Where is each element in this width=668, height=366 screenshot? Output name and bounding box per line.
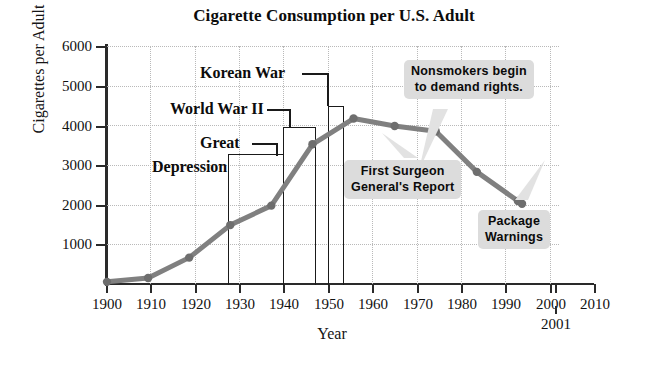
y-tick-label-2000: 2000 [40,197,92,214]
y-tick-label-6000: 6000 [40,38,92,55]
leader-world-war-ii [267,109,290,111]
x-tick-1920 [195,284,197,293]
x-axis-title: Year [106,325,558,343]
annotation-surgeon-line1: First Surgeon [351,164,454,180]
chart-title: Cigarette Consumption per U.S. Adult [0,6,668,26]
data-point [144,274,152,282]
x-tick-1950 [328,284,330,293]
x-tick-2000 [550,284,552,293]
x-tick-2001-stem [555,306,557,314]
data-point [349,114,357,122]
data-point [103,278,111,286]
y-tick-label-1000: 1000 [40,236,92,253]
annotation-nonsmokers: Nonsmokers begin to demand rights. [404,60,534,99]
y-tick-3000 [96,165,107,167]
y-tick-label-3000: 3000 [40,157,92,174]
data-point [267,201,275,209]
callout-korean-war: Korean War [200,64,285,82]
y-tick-4000 [96,126,107,128]
x-tick-1960 [372,284,374,293]
chart-container: Cigarette Consumption per U.S. Adult Cig… [0,0,668,366]
x-tick-1980 [461,284,463,293]
annotation-package-warnings: Package Warnings [478,210,550,249]
annotation-surgeon-line2: General's Report [351,180,454,196]
data-point [432,127,440,135]
data-point [185,253,193,261]
leader-great-depression [252,143,277,145]
callout-great: Great [200,134,240,152]
leader-world-war-ii-stem [289,109,291,128]
leader-korean-war [302,73,328,75]
x-tick-label-2001: 2001 [530,316,582,333]
data-point [518,199,526,207]
data-point [308,140,316,148]
callout-world-war-ii: World War II [170,100,264,118]
data-point [473,168,481,176]
x-tick-1970 [417,284,419,293]
annotation-nonsmokers-line2: to demand rights. [411,80,527,96]
y-tick-6000 [96,46,107,48]
y-tick-1000 [96,244,107,246]
annotation-surgeon-general: First Surgeon General's Report [344,160,461,199]
x-tick-2001 [555,284,557,293]
leader-korean-war-stem [327,73,329,106]
y-tick-label-4000: 4000 [40,118,92,135]
annotation-package-line2: Warnings [485,230,543,246]
data-point [390,122,398,130]
callout-depression: Depression [152,158,227,176]
annotation-nonsmokers-line1: Nonsmokers begin [411,64,527,80]
y-tick-2000 [96,205,107,207]
x-tick-1910 [150,284,152,293]
x-tick-1990 [505,284,507,293]
annotation-package-line1: Package [485,214,543,230]
x-tick-1930 [239,284,241,293]
y-tick-5000 [96,86,107,88]
data-point [226,221,234,229]
x-tick-1940 [283,284,285,293]
y-tick-label-5000: 5000 [40,78,92,95]
x-tick-label-2010: 2010 [569,296,621,313]
x-tick-2010 [594,284,596,293]
leader-great-depression-stem [276,143,278,156]
